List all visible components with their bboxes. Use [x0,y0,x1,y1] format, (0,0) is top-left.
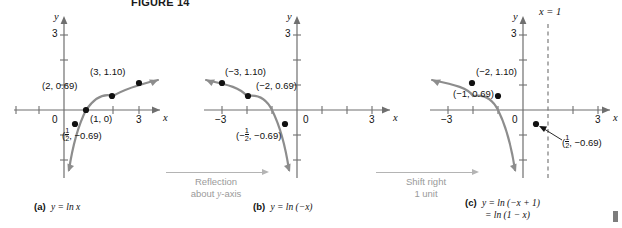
point-label-b-3: (−12, −0.69) [236,127,281,143]
x-tick-label-b-3: 3 [369,114,375,125]
figure-14-root: FIGURE 14 [0,0,622,228]
x-tick-label-a-0: 0 [52,114,58,125]
point-label-a-1: (1, 0) [90,113,112,124]
x-tick-label-c-3: 3 [595,114,601,125]
x-axis-arrowhead-a [152,107,160,114]
x-tick-label-c--3: −3 [441,114,452,125]
transition-text-bc: Shift right 1 unit [376,176,476,200]
page-corner-marker [613,211,618,222]
point-label-a-3: (3, 1.10) [90,66,125,77]
x-axis-arrowhead-c [602,107,610,114]
data-point-a-1 [83,107,89,113]
data-point-c-2 [495,93,501,99]
point-label-c-1: (−2, 1.10) [476,66,517,77]
curve-arrowhead-b-down [284,164,291,173]
point-label-c-2: (−1, 0.69) [453,88,494,99]
x-axis-label-b: x [393,112,398,123]
y-tick-label-b-3: 3 [285,28,291,39]
point-label-a-4: (12, −0.69) [62,127,102,143]
point-label-b-2: (−2, 0.69) [256,80,297,91]
y-axis-label-c: y [513,11,518,22]
data-point-a-2 [109,93,115,99]
y-tick-label-a-3: 3 [52,28,58,39]
x-tick-label-b--3: −3 [215,114,226,125]
caption-b: (b) y = ln (−x) [253,201,313,212]
data-point-c-3 [533,121,539,127]
y-axis-arrowhead-a [61,16,68,24]
point-label-b-1: (−3, 1.10) [225,66,266,77]
transition-arrowhead-ab [262,169,269,175]
leader-arrowhead-c-3 [539,126,547,132]
point-label-a-2: (2, 0.69) [42,80,77,91]
x-axis-arrowhead-b [382,107,390,114]
x-axis-label-c: x [613,112,618,123]
asymptote-label-c: x = 1 [539,6,561,17]
point-label-c-3: (12, −0.69) [562,134,602,150]
y-tick-label-c-3: 3 [511,28,517,39]
transition-arrow-line-bc [376,172,476,173]
x-tick-label-c-0: 0 [512,114,518,125]
y-axis-arrowhead-c [520,16,527,24]
y-axis-label-b: y [287,11,292,22]
data-point-a-3 [136,80,142,86]
transition-arrowhead-bc [472,169,479,175]
transition-arrow-line-ab [166,172,266,173]
transition-text-ab: Reflection about y-axis [166,176,266,200]
caption-c: (c) y = ln (−x + 1) = ln (1 − x) [465,197,540,221]
x-tick-label-b-0: 0 [303,114,309,125]
curve-arrowhead-c-down [510,164,517,173]
caption-a: (a) y = ln x [34,201,80,212]
data-point-c-1 [469,80,475,86]
data-point-b-2 [245,93,251,99]
data-point-b-3 [282,121,288,127]
x-tick-label-a-3: 3 [136,114,142,125]
x-axis-label-a: x [163,112,168,123]
data-point-b-1 [219,80,225,86]
y-axis-label-a: y [54,11,59,22]
curve-arrowhead-a-down [68,164,75,173]
y-axis-arrowhead-b [294,16,301,24]
